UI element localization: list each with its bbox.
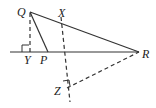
label-p: P: [39, 53, 48, 67]
segment-qr: [30, 12, 139, 52]
label-r: R: [141, 47, 150, 61]
right-angle-mark-z: [63, 80, 70, 86]
right-angle-mark-y: [22, 45, 29, 52]
line-xz: [61, 17, 70, 102]
label-x: X: [57, 6, 66, 20]
triangle-diagram: Q X Y P R Z: [0, 0, 156, 108]
label-y: Y: [24, 53, 32, 67]
label-z: Z: [54, 84, 61, 98]
label-q: Q: [17, 5, 26, 19]
altitude-rz: [67, 52, 139, 88]
